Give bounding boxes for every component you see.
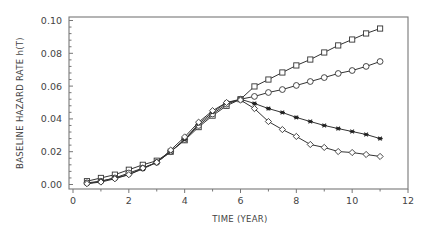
- x-tick-label: 0: [70, 195, 76, 206]
- diamond-marker-icon: [377, 153, 383, 159]
- star-marker-icon: [377, 137, 382, 141]
- circle-marker-icon: [252, 94, 258, 100]
- x-axis-ticks: 024681012: [70, 189, 414, 206]
- circle-marker-icon: [293, 83, 299, 89]
- y-axis-title: BASELINE HAZARD RATE h(T): [15, 37, 25, 169]
- x-tick-label: 10: [346, 195, 358, 206]
- square-marker-icon: [308, 57, 313, 62]
- diamond-marker-icon: [363, 151, 369, 157]
- star-marker-icon: [294, 116, 299, 120]
- diamond-marker-icon: [335, 148, 341, 154]
- star-marker-icon: [280, 111, 285, 115]
- star-marker-icon: [266, 107, 271, 111]
- star-marker-icon: [252, 102, 257, 106]
- star-marker-icon: [364, 133, 369, 137]
- x-tick-label: 12: [402, 195, 414, 206]
- circle-marker-icon: [266, 90, 272, 96]
- diamond-marker-icon: [349, 149, 355, 155]
- square-marker-icon: [294, 63, 299, 68]
- series-line: [87, 62, 380, 183]
- series-circle: [84, 59, 383, 186]
- square-marker-icon: [252, 84, 257, 89]
- series-diamond: [84, 97, 383, 187]
- x-axis-title: TIME (YEAR): [211, 214, 267, 224]
- star-marker-icon: [322, 124, 327, 128]
- x-tick-label: 6: [237, 195, 243, 206]
- circle-marker-icon: [279, 87, 285, 93]
- y-tick-label: 0.00: [41, 179, 62, 190]
- star-marker-icon: [350, 130, 355, 134]
- star-marker-icon: [308, 120, 313, 124]
- y-tick-label: 0.04: [41, 113, 62, 124]
- series-layer: [84, 26, 383, 187]
- star-marker-icon: [336, 127, 341, 131]
- plot-frame: [69, 17, 408, 189]
- y-tick-label: 0.02: [41, 146, 62, 157]
- square-marker-icon: [350, 37, 355, 42]
- y-tick-label: 0.10: [41, 15, 62, 26]
- x-tick-label: 8: [293, 195, 299, 206]
- diamond-marker-icon: [307, 141, 313, 147]
- circle-marker-icon: [335, 71, 341, 77]
- x-tick-label: 4: [182, 195, 188, 206]
- circle-marker-icon: [377, 59, 383, 65]
- circle-marker-icon: [363, 64, 369, 70]
- hazard-rate-chart: 0.000.020.040.060.080.10 024681012 TIME …: [0, 0, 434, 238]
- diamond-marker-icon: [293, 133, 299, 139]
- square-marker-icon: [377, 26, 382, 31]
- series-line: [87, 29, 380, 182]
- diamond-marker-icon: [321, 144, 327, 150]
- y-tick-label: 0.08: [41, 48, 62, 59]
- square-marker-icon: [280, 70, 285, 75]
- circle-marker-icon: [321, 75, 327, 81]
- diamond-marker-icon: [279, 126, 285, 132]
- square-marker-icon: [364, 31, 369, 36]
- x-tick-label: 2: [126, 195, 132, 206]
- circle-marker-icon: [349, 68, 355, 74]
- y-tick-label: 0.06: [41, 81, 62, 92]
- circle-marker-icon: [307, 79, 313, 85]
- square-marker-icon: [336, 43, 341, 48]
- y-axis-ticks: 0.000.020.040.060.080.10: [41, 15, 73, 190]
- series-square: [84, 26, 382, 184]
- square-marker-icon: [266, 77, 271, 82]
- square-marker-icon: [322, 50, 327, 55]
